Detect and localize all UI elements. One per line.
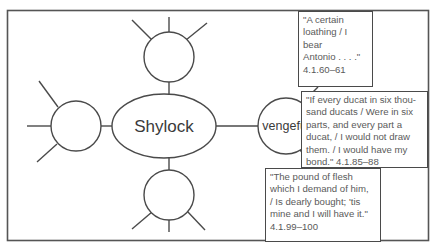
empty-node-top[interactable]: [132, 17, 207, 82]
empty-node-bottom[interactable]: [132, 170, 205, 232]
evidence-box-1: "A certain loathing / I bear Antonio . .…: [298, 11, 373, 87]
spoke: [132, 20, 152, 40]
spoke: [187, 211, 205, 230]
empty-node-left[interactable]: [27, 81, 101, 162]
central-node-label: Shylock: [134, 117, 194, 136]
spoke: [186, 23, 207, 40]
empty-node-circle[interactable]: [144, 32, 194, 82]
evidence-box-3: "The pound of flesh which I demand of hi…: [265, 168, 381, 242]
spoke: [39, 81, 58, 107]
empty-node-circle[interactable]: [51, 101, 101, 151]
spoke: [37, 144, 57, 162]
central-node[interactable]: Shylock: [112, 94, 216, 158]
empty-node-circle[interactable]: [144, 170, 194, 220]
evidence-box-2: "If every ducat in six thou- sand ducats…: [301, 91, 428, 168]
spoke: [132, 212, 152, 229]
